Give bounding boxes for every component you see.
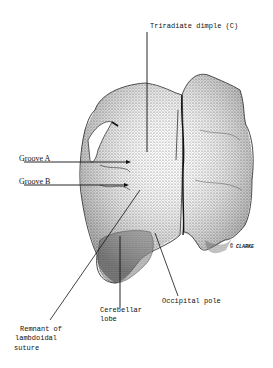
label-groove-b: Groove B	[19, 177, 50, 186]
copyright-mark: © CLARKE	[230, 243, 254, 252]
anatomical-diagram: Triradiate dimple (C) Groove A Groove B …	[0, 0, 273, 368]
label-cerebellar-1: Cerebellar	[100, 306, 142, 315]
label-groove-a: Groove A	[19, 154, 50, 163]
label-occipital-pole: Occipital pole	[162, 297, 221, 306]
label-triradiate-dimple: Triradiate dimple (C)	[150, 22, 238, 31]
label-cerebellar-2: lobe	[100, 315, 117, 324]
label-remnant-2: lambdoidal	[15, 334, 57, 343]
label-remnant-1: Remnant of	[20, 325, 62, 334]
label-remnant-3: suture	[14, 344, 39, 353]
